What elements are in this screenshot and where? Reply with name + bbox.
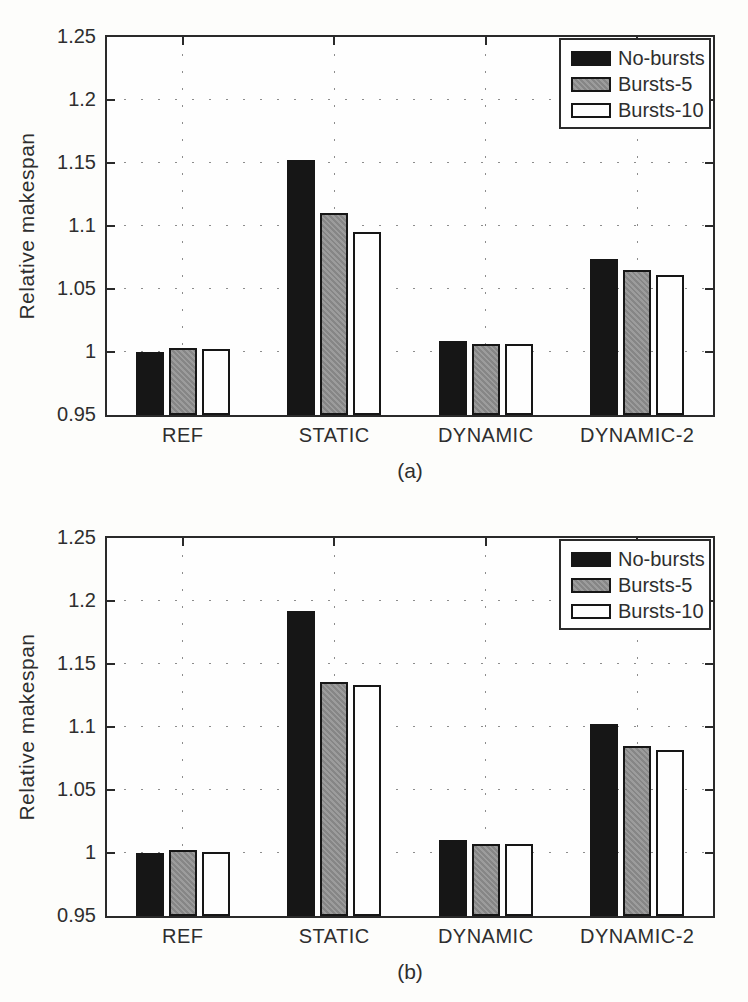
bar-bursts-5-dynamic <box>472 344 500 415</box>
y-tick-label: 1.15 <box>26 151 96 174</box>
figure: Relative makespan No-burstsBursts-5Burst… <box>0 0 748 1002</box>
bar-bursts-10-dynamic <box>505 844 533 916</box>
y-tick-label: 1.15 <box>26 652 96 675</box>
gridline-horizontal <box>107 726 713 727</box>
y-tick-label: 1.05 <box>26 778 96 801</box>
y-tick-label: 0.95 <box>26 904 96 927</box>
legend-entry: No-bursts <box>571 47 703 69</box>
legend-swatch-bursts-5 <box>571 77 611 92</box>
y-axis-tick <box>705 789 713 791</box>
y-axis-tick <box>705 852 713 854</box>
gridline-horizontal <box>107 789 713 790</box>
legend-entry: Bursts-10 <box>571 99 703 121</box>
y-tick-label: 1.1 <box>26 715 96 738</box>
legend-label: Bursts-10 <box>618 99 704 121</box>
subplot-b-caption: (b) <box>105 960 715 984</box>
y-tick-label: 1.05 <box>26 277 96 300</box>
y-axis-tick <box>107 225 115 227</box>
subplot-a-caption: (a) <box>105 459 715 483</box>
legend-swatch-no-bursts <box>571 51 611 66</box>
legend-entry: No-bursts <box>571 548 703 570</box>
bar-no-bursts-dynamic-2 <box>590 724 618 916</box>
y-tick-label: 1.2 <box>26 88 96 111</box>
legend-entry: Bursts-5 <box>571 73 703 95</box>
legend-label: Bursts-5 <box>618 73 692 95</box>
legend-swatch-no-bursts <box>571 552 611 567</box>
bar-bursts-10-ref <box>202 349 230 415</box>
y-axis-tick <box>107 600 115 602</box>
bar-no-bursts-static <box>287 160 315 415</box>
y-tick-label: 0.95 <box>26 403 96 426</box>
legend-label: Bursts-10 <box>618 600 704 622</box>
x-axis-tick <box>182 538 184 546</box>
y-axis-tick <box>705 162 713 164</box>
y-axis-tick <box>107 663 115 665</box>
gridline-horizontal <box>107 351 713 352</box>
y-axis-tick <box>107 288 115 290</box>
y-axis-tick <box>107 99 115 101</box>
y-axis-tick <box>107 351 115 353</box>
x-axis-tick <box>333 37 335 45</box>
gridline-horizontal <box>107 288 713 289</box>
legend: No-burstsBursts-5Bursts-10 <box>559 38 711 129</box>
legend-swatch-bursts-10 <box>571 103 611 118</box>
bar-bursts-5-ref <box>169 348 197 415</box>
bar-bursts-5-ref <box>169 850 197 916</box>
bar-bursts-10-static <box>353 685 381 916</box>
legend-entry: Bursts-10 <box>571 600 703 622</box>
legend-swatch-bursts-5 <box>571 578 611 593</box>
y-axis-tick <box>705 351 713 353</box>
gridline-horizontal <box>107 663 713 664</box>
bar-no-bursts-dynamic <box>439 341 467 415</box>
legend-label: No-bursts <box>618 548 705 570</box>
legend: No-burstsBursts-5Bursts-10 <box>559 539 711 630</box>
y-tick-label: 1.25 <box>26 25 96 48</box>
y-tick-label: 1 <box>26 841 96 864</box>
subplot-a: Relative makespan No-burstsBursts-5Burst… <box>0 0 748 501</box>
gridline-horizontal <box>107 225 713 226</box>
legend-label: Bursts-5 <box>618 574 692 596</box>
y-tick-label: 1.2 <box>26 589 96 612</box>
bar-bursts-10-dynamic-2 <box>656 750 684 916</box>
x-axis-tick <box>485 538 487 546</box>
x-axis-tick <box>333 538 335 546</box>
bar-bursts-10-static <box>353 232 381 415</box>
legend-label: No-bursts <box>618 47 705 69</box>
y-axis-tick <box>107 789 115 791</box>
legend-swatch-bursts-10 <box>571 604 611 619</box>
x-axis-tick <box>485 37 487 45</box>
x-axis-tick <box>182 37 184 45</box>
bar-bursts-5-static <box>320 682 348 916</box>
y-tick-label: 1.1 <box>26 214 96 237</box>
plot-area: No-burstsBursts-5Bursts-10 <box>105 35 715 417</box>
bar-bursts-5-static <box>320 213 348 415</box>
y-axis-tick <box>107 162 115 164</box>
subplot-b: Relative makespan No-burstsBursts-5Burst… <box>0 501 748 1002</box>
bar-no-bursts-dynamic-2 <box>590 259 618 415</box>
x-category-label: DYNAMIC-2 <box>547 925 727 948</box>
bar-no-bursts-ref <box>136 352 164 415</box>
plot-area: No-burstsBursts-5Bursts-10 <box>105 536 715 918</box>
y-axis-tick <box>705 225 713 227</box>
gridline-horizontal <box>107 852 713 853</box>
y-tick-label: 1 <box>26 340 96 363</box>
y-axis-tick <box>705 288 713 290</box>
bar-bursts-5-dynamic-2 <box>623 270 651 415</box>
y-axis-tick <box>107 852 115 854</box>
x-category-label: DYNAMIC-2 <box>547 424 727 447</box>
bar-no-bursts-static <box>287 611 315 916</box>
y-tick-label: 1.25 <box>26 526 96 549</box>
gridline-horizontal <box>107 162 713 163</box>
y-axis-tick <box>107 726 115 728</box>
bar-bursts-10-dynamic-2 <box>656 275 684 415</box>
bar-no-bursts-ref <box>136 853 164 916</box>
y-axis-tick <box>705 726 713 728</box>
bar-no-bursts-dynamic <box>439 840 467 916</box>
legend-entry: Bursts-5 <box>571 574 703 596</box>
bar-bursts-5-dynamic <box>472 844 500 916</box>
bar-bursts-5-dynamic-2 <box>623 746 651 916</box>
y-axis-tick <box>705 663 713 665</box>
bar-bursts-10-ref <box>202 852 230 916</box>
bar-bursts-10-dynamic <box>505 344 533 415</box>
